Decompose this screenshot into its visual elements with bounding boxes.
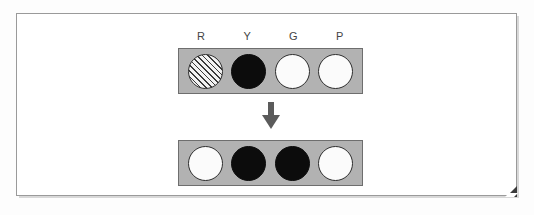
peg-bottom-p [318,146,353,181]
peg-top-g [275,54,310,89]
peg-top-r [188,54,223,89]
peg-bar-top [178,48,363,94]
column-label-g: G [271,28,317,45]
column-label-p: P [317,28,363,45]
peg-bar-bottom [178,140,363,186]
peg-bottom-g [275,146,310,181]
column-label-r: R [178,28,224,45]
column-label-y: Y [224,28,270,45]
column-labels: R Y G P [178,28,363,45]
peg-top-y [231,54,266,89]
peg-transformation-diagram: R Y G P [0,0,534,215]
peg-bottom-y [231,146,266,181]
arrow-head [262,115,280,129]
peg-bottom-r [188,146,223,181]
down-arrow-icon [262,102,280,129]
peg-top-p [318,54,353,89]
page-canvas: R Y G P [0,0,534,215]
